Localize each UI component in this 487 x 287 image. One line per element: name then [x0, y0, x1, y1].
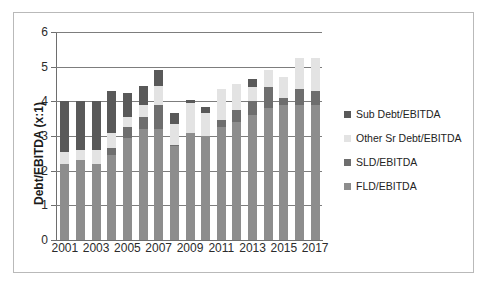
chart-legend: Sub Debt/EBITDAOther Sr Debt/EBITDASLD/E… [344, 108, 472, 204]
y-axis-tick-label: 1 [22, 199, 48, 211]
bar-column [92, 32, 101, 240]
bar-segment [60, 101, 69, 151]
bar-segment [92, 101, 101, 150]
bar-segment [201, 136, 210, 240]
legend-swatch-icon [344, 183, 351, 190]
legend-item-label: Sub Debt/EBITDA [356, 109, 441, 120]
y-axis-tick-label: 3 [22, 130, 48, 142]
bar-column [154, 32, 163, 240]
bar-segment [170, 113, 179, 123]
bar-segment [295, 58, 304, 89]
bar-segment [232, 122, 241, 240]
x-axis-tick-label: 2003 [80, 242, 112, 254]
bar-segment [217, 120, 226, 127]
bar-segment [232, 110, 241, 122]
bar-segment [248, 87, 257, 101]
legend-item[interactable]: FLD/EBITDA [344, 180, 472, 193]
bar-column [217, 32, 226, 240]
bar-segment [92, 164, 101, 240]
bar-segment [186, 103, 195, 132]
chart-frame: Debt/EBITDA (x:1) 0123456 20012003200520… [13, 12, 474, 273]
bar-segment [295, 89, 304, 105]
bar-segment [154, 70, 163, 86]
bar-segment [123, 127, 132, 137]
legend-swatch-icon [344, 135, 351, 142]
legend-item-label: Other Sr Debt/EBITDA [356, 133, 462, 144]
legend-item[interactable]: Sub Debt/EBITDA [344, 108, 472, 121]
bar-segment [139, 86, 148, 105]
legend-swatch-icon [344, 111, 351, 118]
bar-segment [123, 138, 132, 240]
x-axis-tick-label: 2011 [205, 242, 237, 254]
bar-segment [139, 129, 148, 240]
y-axis-tick [51, 101, 56, 102]
x-axis-tick-label: 2017 [299, 242, 331, 254]
bar-segment [170, 124, 179, 145]
bar-segment [92, 150, 101, 164]
bar-segment [123, 93, 132, 117]
bar-column [201, 32, 210, 240]
legend-item-label: FLD/EBITDA [356, 181, 417, 192]
bar-segment [201, 113, 210, 136]
y-axis-tick [51, 205, 56, 206]
bar-column [139, 32, 148, 240]
bar-column [170, 32, 179, 240]
y-axis-title-label: Debt/EBITDA (x:1) [32, 102, 46, 205]
bar-column [107, 32, 116, 240]
bar-segment [154, 105, 163, 129]
bar-column [311, 32, 320, 240]
bar-segment [139, 105, 148, 117]
bar-segment [76, 160, 85, 240]
x-axis-tick-label: 2005 [111, 242, 143, 254]
bar-column [295, 32, 304, 240]
bar-segment [107, 155, 116, 240]
bar-segment [60, 152, 69, 164]
bar-segment [279, 77, 288, 98]
bar-column [186, 32, 195, 240]
bar-segment [107, 91, 116, 133]
bar-segment [311, 105, 320, 240]
y-axis-tick-label: 5 [22, 61, 48, 73]
y-axis-tick [51, 32, 56, 33]
legend-item[interactable]: SLD/EBITDA [344, 156, 472, 169]
bar-segment [248, 101, 257, 115]
bar-segment [154, 129, 163, 240]
bar-segment [76, 101, 85, 150]
bar-segment [107, 133, 116, 149]
bar-column [248, 32, 257, 240]
y-axis-tick-label: 4 [22, 95, 48, 107]
y-axis-tick [51, 171, 56, 172]
bar-segment [107, 148, 116, 155]
bar-segment [264, 70, 273, 87]
bar-column [264, 32, 273, 240]
x-axis-tick-label: 2013 [237, 242, 269, 254]
x-axis-labels: 200120032005200720092011201320152017 [56, 242, 326, 260]
bar-column [60, 32, 69, 240]
bar-segment [154, 86, 163, 105]
bar-segment [264, 87, 273, 108]
bar-segment [76, 150, 85, 160]
bar-segment [279, 98, 288, 105]
bar-segment [279, 105, 288, 240]
bar-segment [170, 145, 179, 147]
bar-segment [186, 133, 195, 240]
x-axis-tick-label: 2001 [49, 242, 81, 254]
x-axis-tick-label: 2007 [143, 242, 175, 254]
bar-segment [232, 84, 241, 110]
bar-segment [170, 146, 179, 240]
bar-column [123, 32, 132, 240]
x-axis-tick-label: 2015 [268, 242, 300, 254]
legend-swatch-icon [344, 159, 351, 166]
bar-column [232, 32, 241, 240]
bar-segment [248, 115, 257, 240]
y-axis-tick [51, 136, 56, 137]
bar-segment [139, 117, 148, 129]
x-axis-tick-label: 2009 [174, 242, 206, 254]
legend-item-label: SLD/EBITDA [356, 157, 417, 168]
bar-segment [217, 89, 226, 120]
legend-item[interactable]: Other Sr Debt/EBITDA [344, 132, 472, 145]
bar-segment [186, 100, 195, 103]
bar-segment [311, 91, 320, 105]
y-axis-tick-label: 0 [22, 234, 48, 246]
bar-column [76, 32, 85, 240]
